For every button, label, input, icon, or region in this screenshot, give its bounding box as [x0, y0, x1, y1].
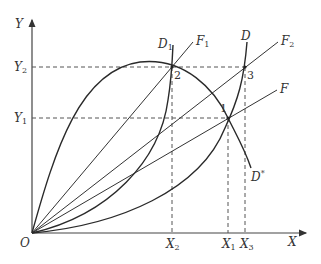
curve-label-d-star: D*: [251, 170, 265, 183]
ray-label-f2: F2: [281, 35, 294, 49]
x-tick-x1: X1: [222, 238, 236, 252]
diagram-canvas: Y X O Y2 Y1 X2 X1 X3 D1 D D* F1 F2 F 1 2…: [0, 0, 321, 264]
curve-d: [32, 42, 247, 233]
ray-f: [32, 90, 277, 233]
origin-label: O: [20, 237, 30, 249]
curve-label-d: D: [241, 30, 251, 44]
x-tick-x3: X3: [240, 238, 254, 252]
curve-d1: [32, 45, 173, 233]
y-axis-label: Y: [15, 18, 23, 30]
point-label-3: 3: [247, 70, 254, 81]
point-label-2: 2: [174, 70, 181, 81]
y-tick-y1: Y1: [14, 112, 27, 126]
ray-f2: [32, 42, 278, 233]
point-1-dot: [226, 116, 229, 119]
point-label-1: 1: [220, 103, 227, 114]
curve-label-d1: D1: [158, 38, 173, 52]
x-axis-label: X: [288, 236, 297, 248]
x-tick-x2: X2: [166, 238, 180, 252]
y-tick-y2: Y2: [14, 61, 27, 75]
ray-f1: [32, 42, 193, 233]
ray-label-f: F: [280, 83, 288, 97]
ray-label-f1: F1: [196, 35, 209, 49]
